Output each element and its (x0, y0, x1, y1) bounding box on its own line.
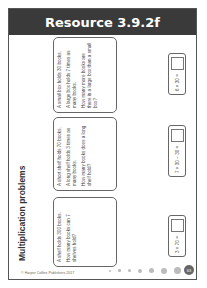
answer-expression: 7 × 30 − 30 = (175, 146, 180, 173)
page-number: 63 (184, 265, 194, 275)
dot-icon (138, 269, 142, 273)
dot-icon (149, 268, 154, 273)
answer-expression: 3 × 70 = (175, 236, 180, 253)
problem-text: A large box holds 7 times as many books. (66, 42, 78, 108)
problem-text: How many books does a long shelf hold? (81, 122, 93, 186)
section-title: Multiplication problems (17, 166, 27, 261)
answer-blank[interactable] (171, 129, 184, 142)
decorative-dots (109, 267, 181, 274)
dot-icon (109, 270, 111, 272)
problem-card-1: A shelf holds 300 books. How many books … (53, 197, 117, 267)
resource-header: Resource 3.9.2f (9, 9, 196, 35)
answer-box-3: 6 × 30 = (168, 53, 186, 95)
problem-text: A long shelf holds 3 times as many books… (66, 122, 78, 186)
problem-text: A small box holds 30 books. (57, 42, 63, 108)
answer-blank[interactable] (171, 219, 184, 232)
worksheet-page: Resource 3.9.2f Multiplication problems … (8, 8, 197, 280)
answer-box-1: 3 × 70 = (168, 215, 186, 257)
problem-card-3: A small box holds 30 books. A large box … (53, 37, 117, 113)
dot-icon (118, 269, 121, 272)
problem-card-2: A short shelf holds 70 books. A long she… (53, 117, 117, 191)
dot-icon (174, 267, 181, 274)
problem-text: A short shelf holds 70 books. (57, 122, 63, 186)
dot-icon (128, 269, 131, 272)
answer-expression: 6 × 30 = (175, 74, 180, 91)
copyright-text: © Harper Collins Publishers 2017 (21, 271, 74, 275)
resource-title: Resource 3.9.2f (45, 15, 160, 30)
answer-blank[interactable] (171, 57, 184, 70)
problem-text: How many books can 7 shelves hold? (66, 202, 78, 262)
problem-text: How many more books are there in a large… (81, 42, 99, 108)
problem-text: A shelf holds 300 books. (57, 202, 63, 262)
dot-icon (161, 268, 167, 274)
answer-box-2: 7 × 30 − 30 = (168, 125, 186, 177)
